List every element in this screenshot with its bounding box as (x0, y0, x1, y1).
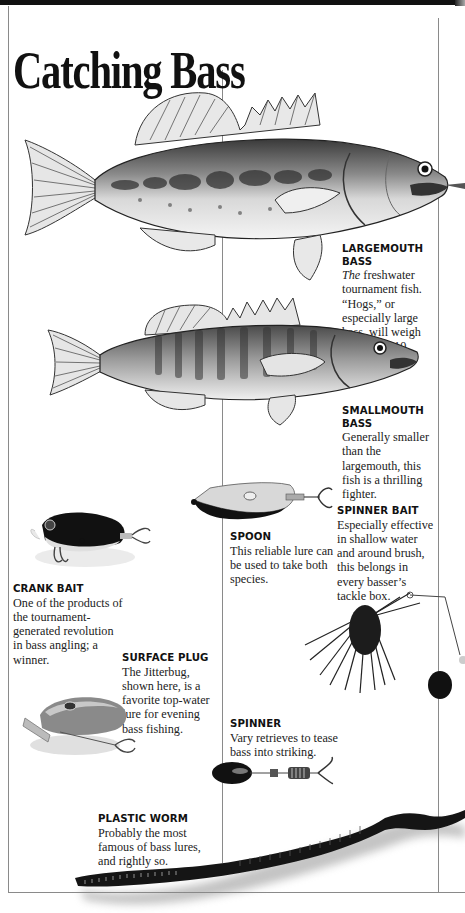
spoon-heading: SPOON (230, 531, 340, 544)
spoon-body: This reliable lure can be used to take b… (230, 544, 333, 587)
crank-bait-body: One of the products of the tournament-ge… (13, 596, 123, 667)
largemouth-heading-line1: LARGEMOUTH (342, 243, 438, 256)
spinner-heading: SPINNER (230, 718, 350, 731)
top-rule-bar (0, 0, 458, 5)
jitterbug-surface-plug-photo (20, 690, 150, 760)
spinner-bait-heading: SPINNER BAIT (337, 505, 438, 518)
smallmouth-body: Generally smaller than the largemouth, t… (342, 430, 429, 501)
plastic-worm-photo (70, 808, 465, 913)
smallmouth-bass-caption: SMALLMOUTH BASS Generally smaller than t… (342, 405, 438, 501)
left-frame-rule (8, 6, 9, 893)
crank-bait-photo (20, 505, 160, 575)
spinner-caption: SPINNER Vary retrieves to tease bass int… (230, 718, 350, 759)
spinner-bait-photo (300, 585, 465, 700)
top-rule-bar-edge (455, 0, 465, 6)
spoon-caption: SPOON This reliable lure can be used to … (230, 531, 340, 586)
smallmouth-heading-line2: BASS (342, 418, 438, 431)
surface-plug-heading: SURFACE PLUG (122, 652, 222, 665)
spoon-lure-photo (190, 480, 335, 525)
crank-bait-caption: CRANK BAIT One of the products of the to… (13, 583, 123, 667)
crank-bait-heading: CRANK BAIT (13, 583, 123, 596)
largemouth-body-emphasis: The (342, 268, 360, 282)
spinner-lure-photo (210, 755, 340, 787)
largemouth-heading-line2: BASS (342, 256, 438, 269)
smallmouth-heading-line1: SMALLMOUTH (342, 405, 438, 418)
